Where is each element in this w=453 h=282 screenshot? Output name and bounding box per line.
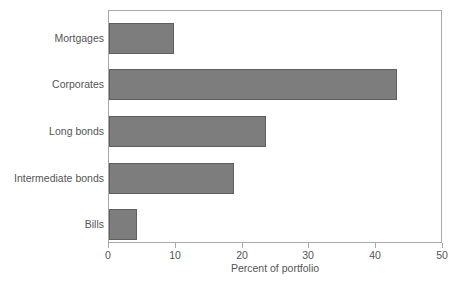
x-tick-mark <box>175 243 176 248</box>
x-tick-label: 10 <box>155 249 195 262</box>
x-tick-mark <box>308 243 309 248</box>
x-tick-mark <box>442 243 443 248</box>
x-tick-mark <box>375 243 376 248</box>
plot-frame <box>108 10 442 243</box>
x-tick-label: 40 <box>355 249 395 262</box>
x-tick-mark <box>108 243 109 248</box>
bar <box>109 209 137 240</box>
category-label: Intermediate bonds <box>0 172 104 184</box>
category-label: Bills <box>0 218 104 230</box>
x-tick-label: 30 <box>288 249 328 262</box>
x-tick-label: 20 <box>222 249 262 262</box>
bar <box>109 116 266 147</box>
x-tick-label: 50 <box>422 249 453 262</box>
bar <box>109 69 397 100</box>
x-tick-label: 0 <box>88 249 128 262</box>
category-label: Corporates <box>0 78 104 90</box>
x-axis-title: Percent of portfolio <box>108 262 442 275</box>
x-tick-mark <box>242 243 243 248</box>
bar <box>109 23 174 54</box>
bar <box>109 163 234 194</box>
category-label: Long bonds <box>0 125 104 137</box>
category-label: Mortgages <box>0 32 104 44</box>
